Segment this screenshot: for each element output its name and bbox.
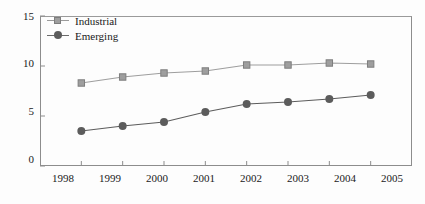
legend-label-industrial: Industrial [69, 15, 117, 27]
legend-label-emerging: Emerging [69, 30, 118, 42]
legend-item-industrial[interactable]: Industrial [47, 13, 147, 28]
square-marker-icon [47, 15, 69, 27]
circle-marker-icon [47, 30, 69, 42]
series-markers [77, 60, 374, 135]
legend: Industrial Emerging [47, 13, 147, 43]
line-chart: 15 10 5 0 1998 1999 2000 2001 2002 2003 … [0, 0, 425, 204]
legend-item-emerging[interactable]: Emerging [47, 28, 147, 43]
